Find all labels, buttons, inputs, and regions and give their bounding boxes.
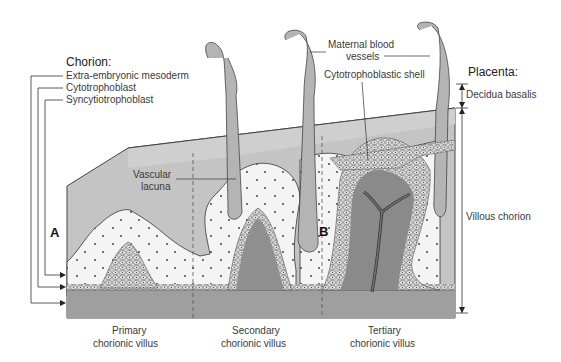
label-extra-embryonic-mesoderm: Extra-embryonic mesoderm [66, 70, 189, 81]
stage-primary-line2: chorionic villus [93, 338, 158, 349]
callout-vascular-lacuna-1: Vascular [133, 169, 172, 180]
placenta-diagram: Chorion: Extra-embryonic mesoderm Cytotr… [0, 0, 561, 362]
stage-primary-line1: Primary [112, 325, 146, 336]
label-villous-chorion: Villous chorion [466, 211, 531, 222]
label-decidua-basalis: Decidua basalis [466, 89, 537, 100]
callout-cytotrophoblastic-shell: Cytotrophoblastic shell [324, 69, 425, 80]
placenta-heading: Placenta: [468, 65, 518, 79]
dimension-bracket [456, 84, 468, 313]
marker-b: B [319, 224, 328, 239]
callout-maternal-blood-vessels-2: vessels [346, 51, 379, 62]
callout-vascular-lacuna-2: lacuna [141, 181, 171, 192]
callout-maternal-blood-vessels-1: Maternal blood [328, 39, 394, 50]
stage-tertiary-line1: Tertiary [368, 325, 401, 336]
marker-a: A [50, 225, 60, 240]
stage-secondary-line1: Secondary [232, 325, 280, 336]
stage-secondary-line2: chorionic villus [221, 338, 286, 349]
stage-tertiary-line2: chorionic villus [350, 338, 415, 349]
chorion-leader-lines [31, 76, 63, 303]
label-syncytiotrophoblast: Syncytiotrophoblast [66, 94, 153, 105]
label-cytotrophoblast: Cytotrophoblast [66, 82, 136, 93]
arrow-heads [60, 272, 66, 306]
chorion-heading: Chorion: [66, 55, 111, 69]
